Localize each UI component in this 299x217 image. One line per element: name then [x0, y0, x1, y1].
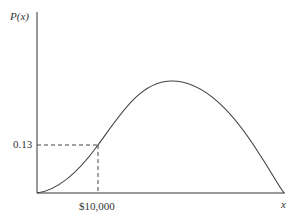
x-axis-label: x: [281, 198, 286, 210]
chart-canvas: [0, 0, 299, 217]
density-curve: [37, 81, 284, 193]
y-axis-label: P(x): [10, 10, 29, 22]
y-tick-label: 0.13: [13, 138, 32, 150]
x-tick-label: $10,000: [79, 200, 115, 212]
